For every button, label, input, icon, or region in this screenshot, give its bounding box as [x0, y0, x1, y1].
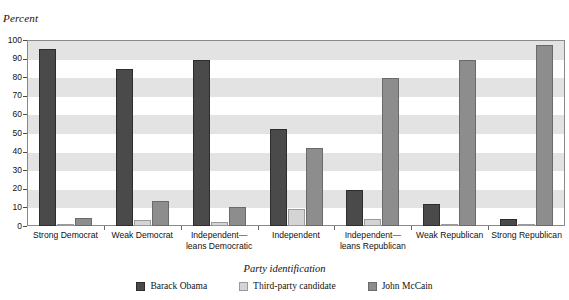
legend-item[interactable]: John McCain — [368, 281, 433, 291]
legend-item[interactable]: Barack Obama — [136, 281, 207, 291]
bar — [152, 201, 169, 226]
bar — [518, 224, 535, 226]
bar — [346, 190, 363, 226]
bar — [364, 219, 381, 226]
bar — [116, 69, 133, 226]
bar — [134, 220, 151, 226]
x-axis-label-line: Strong Republican — [475, 230, 569, 241]
bar-chart-figure: Percent 0102030405060708090100 Strong De… — [0, 0, 569, 300]
bar — [193, 60, 210, 226]
y-axis-tick-label: 100 — [0, 35, 22, 45]
legend-swatch-mccain-icon — [368, 282, 377, 291]
x-axis-label-line: leans Democratic — [168, 241, 271, 252]
y-axis-tick-label: 60 — [0, 109, 22, 119]
bar — [536, 45, 553, 226]
bar — [270, 129, 287, 226]
bar — [229, 207, 246, 226]
y-axis-tick-label: 80 — [0, 72, 22, 82]
y-axis-tick-label: 40 — [0, 146, 22, 156]
y-axis-tick-label: 90 — [0, 53, 22, 63]
legend-swatch-third-party-icon — [239, 282, 248, 291]
bar — [288, 209, 305, 226]
bar — [441, 224, 458, 226]
y-axis-title: Percent — [3, 12, 38, 24]
bar — [500, 219, 517, 226]
x-axis-label-line: leans Republican — [321, 241, 424, 252]
y-axis-tick-label: 50 — [0, 128, 22, 138]
legend-label: Third-party candidate — [253, 281, 336, 291]
chart-legend: Barack ObamaThird-party candidateJohn Mc… — [0, 281, 569, 291]
bar — [211, 222, 228, 226]
bar — [382, 78, 399, 226]
bar — [75, 218, 92, 226]
legend-swatch-obama-icon — [136, 282, 145, 291]
legend-label: Barack Obama — [150, 281, 207, 291]
bar — [39, 49, 56, 226]
bar-series-container — [27, 40, 565, 226]
y-axis-tick-label: 20 — [0, 183, 22, 193]
bar — [423, 204, 440, 226]
y-axis-tick-mark — [23, 226, 27, 227]
y-axis-tick-label: 10 — [0, 202, 22, 212]
legend-item[interactable]: Third-party candidate — [239, 281, 336, 291]
x-axis-category-label: Strong Republican — [475, 230, 569, 241]
bar — [57, 224, 74, 226]
y-axis-tick-label: 0 — [0, 221, 22, 231]
bar — [306, 148, 323, 226]
y-axis-tick-label: 30 — [0, 165, 22, 175]
bar — [459, 60, 476, 226]
y-axis-tick-label: 70 — [0, 90, 22, 100]
x-axis-title: Party identification — [0, 263, 569, 274]
legend-label: John McCain — [382, 281, 433, 291]
